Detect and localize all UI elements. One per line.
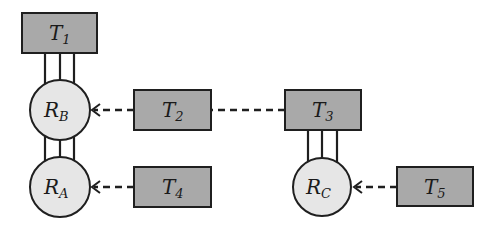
edge-t5-rc [354, 181, 397, 193]
resource-rc: RC [293, 158, 351, 216]
resource-ra: RA [30, 157, 90, 217]
edge-t4-ra [92, 181, 134, 193]
task-t1: T1 [22, 13, 97, 53]
resource-rb: RB [30, 80, 90, 140]
task-t2: T2 [134, 90, 211, 130]
edge-t2-rb [92, 104, 134, 116]
task-t4: T4 [134, 167, 211, 207]
task-t3: T3 [285, 90, 361, 130]
dependency-diagram: RB RA RC T1 T2 T3 T4 T5 [0, 0, 499, 233]
task-t5: T5 [397, 167, 473, 206]
